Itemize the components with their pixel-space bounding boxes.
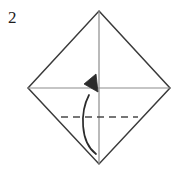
origami-step-figure: 2 [0, 0, 188, 175]
origami-diagram [0, 0, 188, 175]
